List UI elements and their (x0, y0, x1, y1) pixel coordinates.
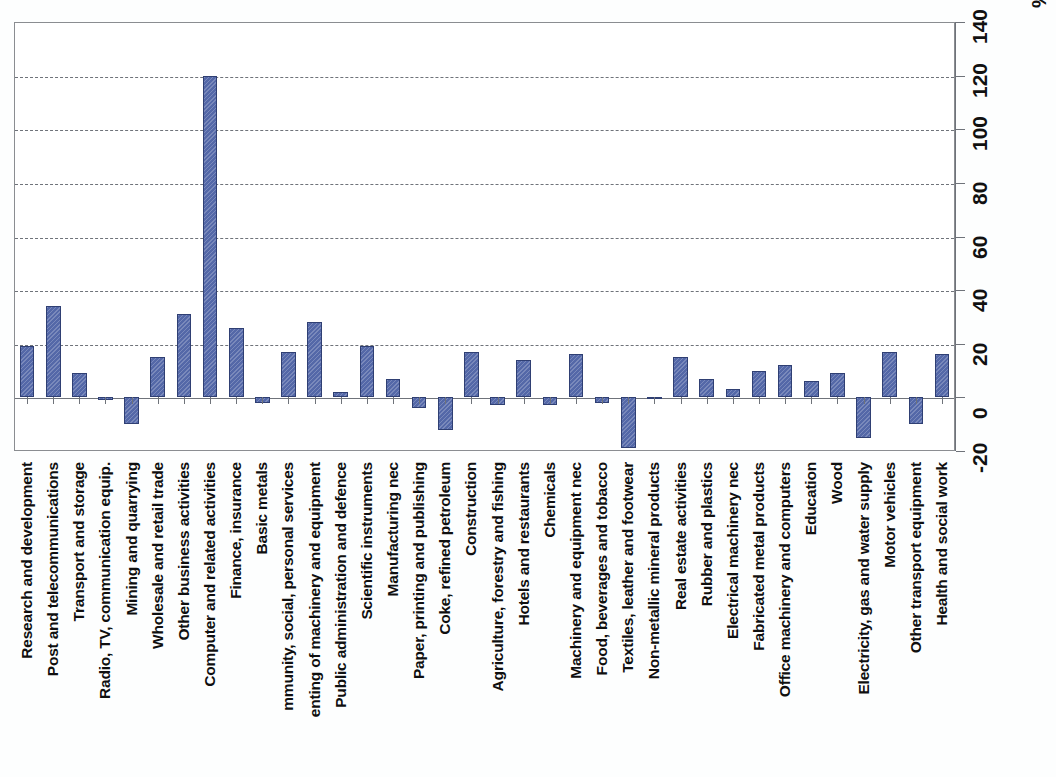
bar[interactable] (516, 360, 531, 398)
x-axis-tick (27, 397, 28, 404)
bar-slot (119, 22, 145, 451)
x-axis-label: Fabricated metal products (750, 462, 768, 651)
x-axis-label: Other transport equipment (907, 462, 925, 653)
bar-slot (615, 22, 641, 451)
x-axis-tick (236, 397, 237, 404)
x-axis-tick (759, 397, 760, 404)
x-axis-tick (942, 397, 943, 404)
bar[interactable] (699, 379, 714, 398)
x-axis-label: Food, beverages and tobacco (593, 462, 611, 675)
x-axis-tick (916, 397, 917, 404)
x-axis-tick (184, 397, 185, 404)
bar-slot (694, 22, 720, 451)
y-axis-tick (956, 397, 965, 398)
bar[interactable] (20, 346, 35, 397)
bar[interactable] (673, 357, 688, 397)
x-axis-label: Real estate activities (672, 462, 690, 610)
x-axis-label: Post and telecommunications (44, 462, 62, 676)
x-label-slot: Electricity, gas and water supply (851, 462, 877, 762)
x-axis-tick (132, 397, 133, 404)
x-axis-label: Agriculture, forestry and fishing (489, 462, 507, 691)
x-axis-tick (158, 397, 159, 404)
x-axis-label: Electrical machinery nec (724, 462, 742, 639)
x-axis-tick (733, 397, 734, 404)
bar-slot (877, 22, 903, 451)
x-label-slot: Basic metals (249, 462, 275, 762)
bar[interactable] (464, 352, 479, 398)
y-axis-tick-label: 20 (968, 342, 992, 365)
y-axis-unit: % (1028, 0, 1051, 8)
x-axis-tick (393, 397, 394, 404)
x-axis-label: Finance, insurance (227, 462, 245, 599)
bar[interactable] (229, 328, 244, 398)
bar-slot (824, 22, 850, 451)
bar[interactable] (726, 389, 741, 397)
bar[interactable] (804, 381, 819, 397)
bar[interactable] (778, 365, 793, 397)
x-axis-tick (210, 397, 211, 404)
bar[interactable] (72, 373, 87, 397)
bar[interactable] (621, 397, 636, 448)
bar-slot (589, 22, 615, 451)
x-axis-tick (785, 397, 786, 404)
x-label-slot: Fabricated metal products (746, 462, 772, 762)
bar-slot (14, 22, 40, 451)
y-axis-tick-label: -20 (968, 443, 992, 473)
y-axis-tick (956, 344, 965, 345)
x-axis-label: Transport and storage (70, 462, 88, 621)
bar-slot (432, 22, 458, 451)
x-axis-tick (262, 397, 263, 404)
bar[interactable] (150, 357, 165, 397)
bar[interactable] (177, 314, 192, 397)
bar-slot (406, 22, 432, 451)
x-label-slot: Wholesale and retail trade (145, 462, 171, 762)
bar[interactable] (46, 306, 61, 397)
y-axis-tick (956, 129, 965, 130)
x-axis-label: Research and development (18, 462, 36, 659)
x-axis-label: Education (802, 462, 820, 535)
x-axis-label: Wholesale and retail trade (149, 462, 167, 649)
bar[interactable] (569, 354, 584, 397)
bar[interactable] (882, 352, 897, 398)
x-label-slot: Electrical machinery nec (720, 462, 746, 762)
x-label-slot: Hotels and restaurants (511, 462, 537, 762)
bar-slot (92, 22, 118, 451)
x-label-slot: Paper, printing and publishing (406, 462, 432, 762)
x-axis-tick (471, 397, 472, 404)
x-label-slot: Non-metallic mineral products (641, 462, 667, 762)
bar[interactable] (281, 352, 296, 398)
bar-slot (851, 22, 877, 451)
bar-slot (929, 22, 955, 451)
bar[interactable] (307, 322, 322, 397)
x-axis-label: Coke, refined petroleum (436, 462, 454, 635)
bar-slot (668, 22, 694, 451)
x-axis-tick (837, 397, 838, 404)
x-label-slot: Coke, refined petroleum (432, 462, 458, 762)
bar[interactable] (386, 379, 401, 398)
x-label-slot: Public administration and defence (328, 462, 354, 762)
bar-slot (772, 22, 798, 451)
bar-slot (485, 22, 511, 451)
x-axis-label: Wood (828, 462, 846, 504)
bar[interactable] (752, 371, 767, 398)
x-axis-tick (315, 397, 316, 404)
bar[interactable] (203, 76, 218, 398)
x-axis-tick (288, 397, 289, 404)
x-label-slot: Scientific instruments (354, 462, 380, 762)
x-axis-tick (628, 397, 629, 404)
x-label-slot: Rubber and plastics (694, 462, 720, 762)
bar-slot (275, 22, 301, 451)
bar-slot (563, 22, 589, 451)
x-label-slot: Real estate activities (668, 462, 694, 762)
x-axis-tick (341, 397, 342, 404)
x-axis-label: Computer and related activities (201, 462, 219, 687)
bar[interactable] (360, 346, 375, 397)
bar[interactable] (830, 373, 845, 397)
bar-slot (66, 22, 92, 451)
bar-slot (537, 22, 563, 451)
y-axis-tick-label: 120 (968, 63, 992, 98)
bar[interactable] (935, 354, 950, 397)
bar-slot (798, 22, 824, 451)
x-label-slot: Health and social work (929, 462, 955, 762)
x-axis-tick (864, 397, 865, 404)
